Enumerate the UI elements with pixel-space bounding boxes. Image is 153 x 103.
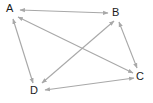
node-label-a: A bbox=[6, 3, 13, 14]
edge-a-c bbox=[18, 17, 133, 73]
node-label-d: D bbox=[30, 85, 38, 96]
edge-a-d bbox=[13, 19, 33, 83]
edge-b-d bbox=[42, 21, 114, 83]
node-label-b: B bbox=[112, 7, 119, 18]
node-label-c: C bbox=[136, 71, 144, 82]
graph-edges-canvas bbox=[0, 0, 153, 103]
edge-b-c bbox=[119, 22, 137, 68]
edge-a-b bbox=[20, 10, 108, 13]
edge-c-d bbox=[45, 78, 134, 90]
graph-diagram: A B C D bbox=[0, 0, 153, 103]
